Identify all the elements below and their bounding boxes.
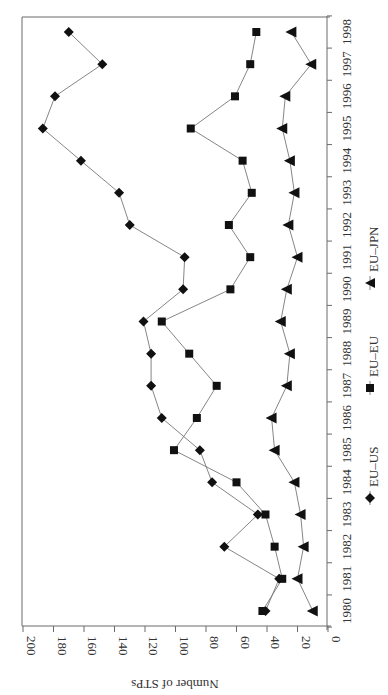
year-tick-label: 1989: [339, 309, 354, 335]
square-marker: [158, 318, 166, 326]
square-marker: [252, 28, 260, 36]
year-tick-label: 1986: [339, 405, 354, 432]
year-tick-label: 1997: [339, 51, 354, 78]
value-axis-title: Number of STPs: [131, 677, 218, 692]
diamond-marker: [50, 91, 60, 101]
year-tick-label: 1992: [339, 212, 354, 238]
square-marker: [248, 189, 256, 197]
series-line: [162, 32, 282, 611]
series-triangle: [266, 27, 318, 617]
year-tick-label: 1982: [339, 534, 354, 560]
value-tick-label: 80: [207, 636, 222, 649]
triangle-marker: [282, 220, 293, 231]
triangle-marker: [292, 573, 303, 584]
square-marker: [278, 575, 286, 583]
year-tick-label: 1996: [339, 83, 354, 110]
value-tick-label: 40: [268, 636, 283, 649]
diamond-marker: [207, 477, 217, 487]
year-tick-label: 1980: [339, 598, 354, 624]
triangle-marker: [305, 59, 316, 70]
triangle-marker: [281, 380, 292, 391]
legend-item: EU–JPN: [365, 226, 381, 290]
square-marker: [231, 92, 239, 100]
series-layer: [38, 27, 318, 617]
year-tick-label: 1994: [339, 147, 354, 174]
year-tick-label: 1987: [339, 372, 354, 399]
square-marker: [185, 350, 193, 358]
year-tick-label: 1998: [339, 19, 354, 45]
triangle-marker: [307, 606, 318, 617]
value-tick-label: 20: [299, 636, 314, 649]
year-tick-label: 1991: [339, 244, 354, 270]
legend-item: EU–US: [365, 447, 381, 505]
diamond-marker: [178, 284, 188, 294]
square-marker: [187, 125, 195, 133]
square-icon: [366, 384, 374, 392]
square-marker: [246, 60, 254, 68]
year-tick-label: 1988: [339, 341, 354, 367]
square-marker: [271, 543, 279, 551]
value-tick-label: 60: [238, 636, 253, 649]
square-marker: [239, 157, 247, 165]
year-tick-label: 1985: [339, 437, 354, 463]
diamond-marker: [146, 349, 156, 359]
triangle-marker: [275, 316, 286, 327]
square-marker: [213, 382, 221, 390]
square-marker: [261, 511, 269, 519]
triangle-marker: [266, 413, 277, 424]
triangle-marker: [288, 477, 299, 488]
square-marker: [258, 607, 266, 615]
square-marker: [246, 253, 254, 261]
line-chart: 020406080100120140160180200 198019811982…: [0, 0, 388, 695]
value-tick-label: 200: [24, 636, 39, 656]
legend-item: EU–EU: [366, 335, 381, 395]
diamond-marker: [180, 252, 190, 262]
series-square: [158, 28, 286, 615]
legend-label: EU–EU: [366, 335, 381, 377]
year-tick-label: 1990: [339, 276, 354, 302]
value-tick-label: 140: [116, 636, 131, 656]
value-axis-ticks: 020406080100120140160180200: [23, 626, 344, 656]
year-tick-label: 1984: [339, 469, 354, 496]
legend: EU–USEU–EUEU–JPN: [365, 226, 381, 505]
value-tick-label: 160: [85, 636, 100, 656]
value-tick-label: 180: [55, 636, 70, 656]
diamond-marker: [125, 220, 135, 230]
square-marker: [233, 478, 241, 486]
value-tick-label: 0: [329, 636, 344, 643]
year-axis-ticks: 1980198119821983198419851986198719881989…: [327, 16, 354, 627]
year-tick-label: 1983: [339, 502, 354, 528]
square-marker: [170, 446, 178, 454]
square-marker: [226, 285, 234, 293]
square-marker: [225, 221, 233, 229]
year-tick-label: 1993: [339, 180, 354, 206]
legend-label: EU–JPN: [366, 226, 381, 272]
legend-label: EU–US: [366, 447, 381, 487]
diamond-icon: [365, 493, 375, 503]
year-tick-label: 1981: [339, 566, 354, 592]
triangle-marker: [276, 123, 287, 134]
triangle-marker: [285, 27, 296, 38]
square-marker: [193, 414, 201, 422]
value-tick-label: 100: [177, 636, 192, 656]
diamond-marker: [146, 381, 156, 391]
year-tick-label: 1995: [339, 116, 354, 142]
triangle-marker: [292, 252, 303, 263]
diamond-marker: [138, 317, 148, 327]
value-tick-label: 120: [146, 636, 161, 656]
